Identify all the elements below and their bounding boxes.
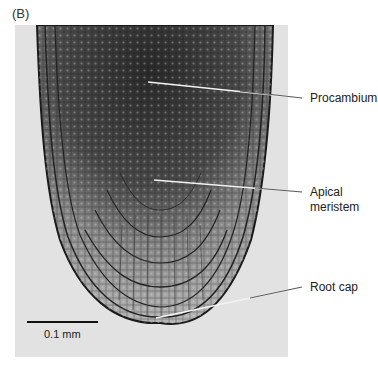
label-root-cap: Root cap [310,280,358,295]
label-procambium: Procambium [310,91,377,106]
scale-bar-label: 0.1 mm [44,328,81,340]
label-apical-meristem-line2: meristem [310,200,359,215]
label-apical-meristem-line1: Apical [310,185,343,200]
